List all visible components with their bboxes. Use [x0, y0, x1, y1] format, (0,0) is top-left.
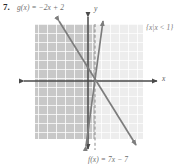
graph-figure: 7. g(x) = −2x + 2 f(x) = 7x − 7 {x|x < 1… — [0, 0, 184, 168]
coordinate-plot — [0, 0, 184, 168]
